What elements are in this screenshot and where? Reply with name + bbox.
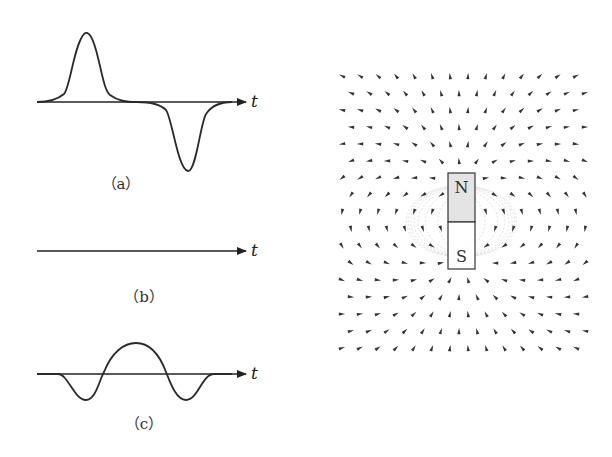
field-arrow-icon (429, 177, 436, 180)
field-arrow-icon (518, 143, 525, 147)
field-arrow-icon (339, 142, 346, 145)
field-arrow-icon (501, 73, 505, 79)
field-arrow-icon (501, 279, 508, 283)
field-arrow-icon (366, 91, 372, 96)
field-arrow-icon (512, 225, 515, 232)
field-arrow-icon (520, 243, 526, 248)
field-arrow-icon (485, 345, 489, 352)
field-arrow-icon (501, 176, 507, 179)
field-arrow-icon (530, 225, 533, 232)
field-arrow-icon (439, 159, 445, 165)
field-arrow-icon (546, 330, 552, 334)
field-arrow-icon (339, 75, 345, 79)
field-arrow-icon (402, 261, 409, 264)
field-arrow-icon (548, 226, 551, 233)
field-arrow-icon (510, 90, 515, 96)
field-arrow-icon (402, 125, 408, 130)
field-arrow-icon (438, 294, 443, 300)
south-label: S (456, 247, 467, 266)
field-arrow-icon (519, 208, 523, 215)
field-arrow-icon (348, 158, 355, 162)
field-arrow-icon (510, 160, 517, 163)
field-arrow-icon (375, 278, 382, 281)
field-arrow-icon (564, 260, 570, 265)
field-arrow-icon (528, 260, 535, 264)
field-arrow-icon (510, 261, 517, 264)
field-arrow-icon (537, 313, 544, 317)
field-arrow-icon (420, 225, 424, 232)
field-arrow-icon (546, 260, 552, 264)
field-arrow-icon (582, 191, 587, 197)
field-arrow-icon (581, 92, 588, 95)
field-arrow-icon (483, 107, 487, 114)
field-arrow-icon (475, 124, 478, 131)
field-arrow-icon (377, 208, 380, 215)
field-arrow-icon (555, 142, 561, 145)
field-arrow-icon (538, 208, 541, 215)
field-arrow-icon (385, 91, 391, 96)
field-arrow-icon (476, 328, 479, 335)
field-arrow-icon (467, 277, 470, 284)
field-arrow-icon (484, 278, 490, 283)
field-arrow-icon (501, 107, 506, 113)
bar-magnet: N S (448, 173, 475, 269)
field-arrow-icon (458, 90, 461, 96)
field-arrow-icon (556, 209, 559, 216)
field-arrow-icon (502, 312, 508, 318)
field-arrow-icon (509, 192, 515, 197)
field-arrow-icon (411, 176, 418, 179)
field-arrow-icon (348, 92, 355, 96)
field-arrow-icon (502, 345, 507, 351)
field-arrow-icon (430, 142, 435, 148)
field-arrow-icon (536, 175, 543, 179)
field-arrow-icon (519, 312, 525, 317)
field-arrow-icon (584, 226, 587, 233)
field-arrow-icon (573, 347, 580, 351)
field-arrow-icon (466, 73, 469, 79)
field-arrow-icon (428, 243, 434, 248)
field-arrow-icon (385, 192, 391, 198)
panel-a-caption: （a） (102, 175, 141, 193)
field-arrow-icon (528, 159, 534, 162)
field-arrow-icon (385, 225, 388, 232)
field-arrow-icon (357, 109, 364, 113)
field-arrow-icon (420, 160, 426, 164)
field-arrow-icon (348, 295, 355, 298)
field-arrow-icon (554, 109, 561, 113)
field-arrow-icon (546, 192, 551, 198)
field-arrow-icon (458, 158, 461, 165)
field-arrow-icon (546, 296, 553, 299)
field-arrow-icon (467, 311, 470, 318)
field-arrow-icon (467, 345, 470, 352)
field-arrow-icon (411, 142, 417, 147)
field-arrow-icon (376, 74, 382, 79)
field-arrow-icon (375, 243, 380, 249)
field-arrow-icon (501, 208, 505, 215)
field-arrow-icon (402, 160, 409, 163)
field-arrow-icon (449, 107, 452, 114)
field-arrow-icon (401, 296, 407, 300)
field-arrow-icon (410, 279, 417, 282)
field-arrow-icon (563, 92, 569, 96)
field-arrow-icon (402, 192, 408, 197)
field-arrow-icon (528, 192, 534, 198)
field-arrow-icon (394, 74, 399, 80)
panel-c-signal-curve (37, 343, 232, 400)
field-arrow-icon (573, 313, 579, 316)
field-arrow-icon (411, 312, 417, 318)
field-arrow-icon (510, 125, 516, 130)
field-arrow-icon (574, 209, 577, 216)
field-arrow-icon (485, 311, 489, 317)
field-arrow-icon (447, 277, 451, 283)
field-arrow-icon (582, 295, 589, 298)
field-arrow-icon (420, 295, 426, 300)
field-arrow-icon (538, 243, 544, 249)
field-arrow-icon (582, 330, 589, 333)
field-arrow-icon (403, 91, 408, 97)
field-arrow-icon (347, 260, 353, 265)
field-arrow-icon (545, 126, 552, 129)
field-arrow-icon (357, 175, 363, 180)
field-arrow-icon (564, 191, 569, 197)
field-arrow-icon (537, 278, 544, 281)
field-arrow-icon (554, 74, 560, 79)
